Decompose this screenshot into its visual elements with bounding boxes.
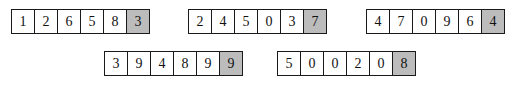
digit-cell-shaded: 8	[392, 51, 416, 76]
digit-cell: 5	[234, 9, 258, 34]
digit-cell: 2	[34, 9, 58, 34]
digit-cell: 3	[280, 9, 304, 34]
digit-cell-shaded: 3	[126, 9, 150, 34]
digit-cell: 2	[188, 9, 212, 34]
digit-cell-shaded: 9	[219, 51, 243, 76]
digit-sequence-5: 500208	[277, 51, 416, 76]
digit-cell: 9	[435, 9, 459, 34]
digit-cell: 4	[211, 9, 235, 34]
digit-cell: 4	[150, 51, 174, 76]
digit-cell: 2	[346, 51, 370, 76]
digit-cell: 6	[458, 9, 482, 34]
digit-cell: 8	[173, 51, 197, 76]
digit-cell: 0	[257, 9, 281, 34]
digit-cell: 0	[300, 51, 324, 76]
digit-cell: 5	[80, 9, 104, 34]
digit-sequence-2: 245037	[188, 9, 327, 34]
digit-cell: 8	[103, 9, 127, 34]
digit-cell-shaded: 4	[481, 9, 505, 34]
diagram-canvas: 126583245037470964394899500208	[0, 0, 516, 86]
digit-cell: 9	[127, 51, 151, 76]
digit-cell: 5	[277, 51, 301, 76]
digit-cell: 3	[104, 51, 128, 76]
digit-cell: 0	[323, 51, 347, 76]
digit-sequence-3: 470964	[366, 9, 505, 34]
digit-cell: 0	[369, 51, 393, 76]
digit-cell: 1	[11, 9, 35, 34]
digit-cell-shaded: 7	[303, 9, 327, 34]
digit-cell: 7	[389, 9, 413, 34]
digit-cell: 9	[196, 51, 220, 76]
digit-cell: 4	[366, 9, 390, 34]
digit-cell: 0	[412, 9, 436, 34]
digit-sequence-1: 126583	[11, 9, 150, 34]
digit-sequence-4: 394899	[104, 51, 243, 76]
digit-cell: 6	[57, 9, 81, 34]
